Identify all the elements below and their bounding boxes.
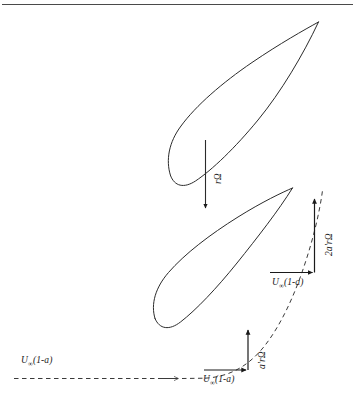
axial-velocity-near-symbol: U (203, 374, 210, 384)
velocity-triangle-upper (270, 199, 315, 273)
label-rotational-speed: rΩ (214, 173, 224, 184)
axial-velocity-far-symbol: U (21, 355, 28, 365)
velocity-triangle-lower (204, 330, 248, 370)
axial-velocity-mid-symbol: U (272, 277, 279, 287)
label-tangential-induction-upper: 2a'rΩ (325, 233, 335, 256)
upper-airfoil (168, 22, 318, 185)
label-axial-velocity-near: U∞(1-a) (203, 375, 234, 387)
lower-airfoil (153, 188, 292, 328)
label-axial-velocity-mid: U∞(1-a) (272, 278, 303, 290)
label-axial-velocity-far: U∞(1-a) (21, 356, 52, 368)
axial-velocity-far-term: (1-a) (33, 355, 53, 365)
diagram-canvas (0, 0, 355, 408)
axial-velocity-mid-term: (1-a) (284, 277, 304, 287)
axial-velocity-near-term: (1-a) (215, 374, 235, 384)
blade-element-velocity-diagram: rΩ 2a'rΩ a'rΩ U∞(1-a) U∞(1-a) U∞(1-a) (0, 0, 355, 408)
label-tangential-induction-lower: a'rΩ (258, 351, 268, 369)
